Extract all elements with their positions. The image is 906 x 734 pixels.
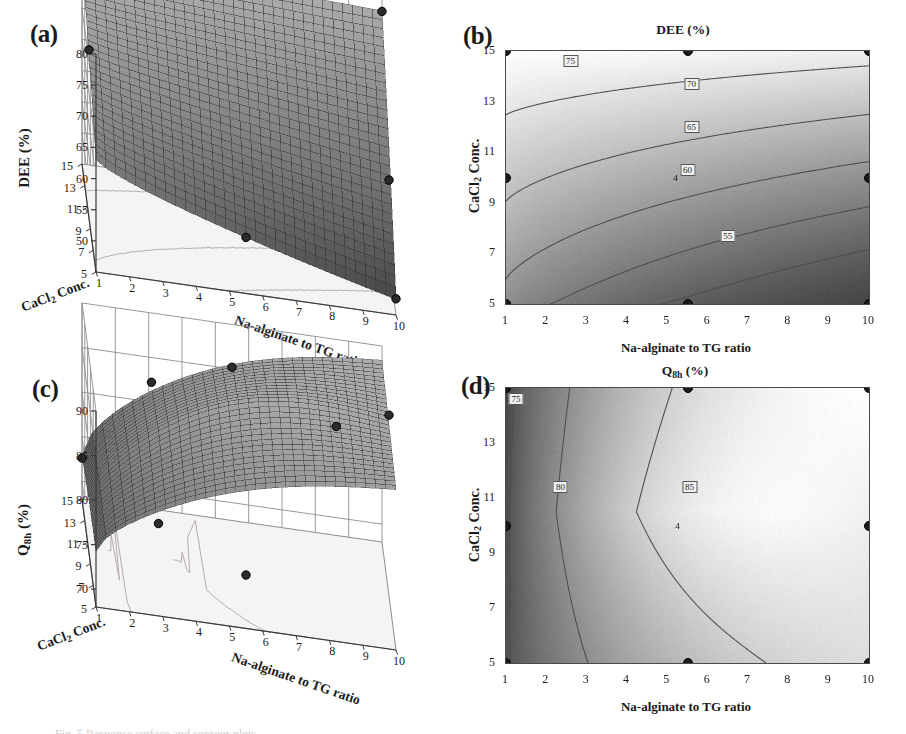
x-tick-label-5: 5 bbox=[663, 672, 669, 687]
panel-d-title: Q8h (%) bbox=[662, 363, 709, 380]
x-tick-label-4: 4 bbox=[623, 672, 629, 687]
y-tick-label-11: 11 bbox=[483, 490, 495, 505]
y-tick-mark bbox=[505, 152, 506, 153]
x-tick-label-4: 4 bbox=[623, 313, 629, 328]
cacl2-tick-label-15: 15 bbox=[61, 494, 73, 509]
cacl2-tick-label-7: 7 bbox=[78, 580, 84, 595]
ratio-tick-label-3: 3 bbox=[163, 620, 169, 635]
ratio-tick-label-6: 6 bbox=[263, 299, 269, 314]
z-tick-label-65: 65 bbox=[76, 140, 88, 155]
x-tick-label-9: 9 bbox=[825, 313, 831, 328]
ratio-tick-label-5: 5 bbox=[229, 295, 235, 310]
cacl2-tick-label-11: 11 bbox=[67, 202, 79, 217]
z-tick-label-75: 75 bbox=[76, 78, 88, 93]
x-tick-label-10: 10 bbox=[862, 672, 874, 687]
y-tick-label-13: 13 bbox=[483, 435, 495, 450]
panel-a-z-axis-label: DEE (%) bbox=[16, 128, 33, 188]
x-tick-mark bbox=[747, 304, 748, 305]
y-tick-mark bbox=[505, 607, 506, 608]
ratio-tick-label-5: 5 bbox=[229, 630, 235, 645]
x-tick-mark bbox=[586, 663, 587, 664]
panel-b-x-axis-label: Na-alginate to TG ratio bbox=[621, 340, 751, 356]
x-tick-mark bbox=[667, 663, 668, 664]
ratio-tick-label-8: 8 bbox=[329, 309, 335, 324]
contour-label-60: 60 bbox=[680, 164, 695, 176]
ratio-tick-label-10: 10 bbox=[393, 654, 405, 669]
x-tick-mark bbox=[707, 663, 708, 664]
panel-d-contour-surface bbox=[506, 388, 869, 663]
ratio-tick-label-7: 7 bbox=[296, 304, 302, 319]
y-tick-label-9: 9 bbox=[489, 194, 495, 209]
y-tick-mark bbox=[505, 202, 506, 203]
x-tick-mark bbox=[626, 304, 627, 305]
y-tick-label-11: 11 bbox=[483, 144, 495, 159]
panel-b-title: DEE (%) bbox=[656, 22, 710, 38]
ratio-tick-label-6: 6 bbox=[263, 634, 269, 649]
cacl2-tick-label-5: 5 bbox=[81, 602, 87, 617]
y-tick-mark bbox=[505, 50, 506, 51]
ratio-tick-label-4: 4 bbox=[196, 290, 202, 305]
cacl2-tick-label-15: 15 bbox=[61, 159, 73, 174]
design-point bbox=[683, 658, 693, 664]
x-tick-label-7: 7 bbox=[744, 313, 750, 328]
y-tick-label-13: 13 bbox=[483, 93, 495, 108]
ratio-tick-label-7: 7 bbox=[296, 639, 302, 654]
panel-d-contour-q8h: (d) Q8h (%) 7580854 Na-alginate to TG ra… bbox=[453, 367, 906, 734]
x-tick-mark bbox=[586, 304, 587, 305]
ratio-tick-label-2: 2 bbox=[129, 280, 135, 295]
design-point bbox=[864, 521, 870, 531]
y-tick-mark bbox=[505, 497, 506, 498]
z-tick-label-90: 90 bbox=[76, 404, 88, 419]
contour-label-65: 65 bbox=[684, 121, 699, 133]
x-tick-label-8: 8 bbox=[784, 672, 790, 687]
panel-c-z-axis-label: Q8h (%) bbox=[15, 504, 33, 556]
y-tick-mark bbox=[505, 253, 506, 254]
design-point bbox=[864, 173, 870, 183]
x-tick-label-10: 10 bbox=[862, 313, 874, 328]
z-tick-label-85: 85 bbox=[76, 448, 88, 463]
x-tick-mark bbox=[747, 663, 748, 664]
cacl2-tick-label-9: 9 bbox=[75, 558, 81, 573]
figure-caption: Fig. 5 Response surface and contour plot… bbox=[55, 727, 906, 734]
x-tick-mark bbox=[667, 304, 668, 305]
contour-label-85: 85 bbox=[682, 481, 697, 493]
x-tick-mark bbox=[626, 663, 627, 664]
ratio-tick-label-8: 8 bbox=[329, 644, 335, 659]
y-tick-label-5: 5 bbox=[489, 655, 495, 670]
design-point bbox=[864, 299, 870, 305]
y-tick-label-15: 15 bbox=[483, 43, 495, 58]
x-tick-mark bbox=[546, 304, 547, 305]
contour-label-75: 75 bbox=[509, 393, 524, 405]
panel-b-contour-dee: (b) DEE (%) 75706560554 Na-alginate to T… bbox=[453, 0, 906, 367]
cacl2-tick-label-9: 9 bbox=[75, 223, 81, 238]
x-tick-label-1: 1 bbox=[502, 672, 508, 687]
y-tick-label-9: 9 bbox=[489, 545, 495, 560]
ratio-tick-label-10: 10 bbox=[393, 319, 405, 334]
x-tick-label-3: 3 bbox=[583, 313, 589, 328]
y-tick-label-7: 7 bbox=[489, 600, 495, 615]
contour-label-55: 55 bbox=[720, 230, 735, 242]
x-tick-label-5: 5 bbox=[663, 313, 669, 328]
contour-label-80: 80 bbox=[553, 481, 568, 493]
cacl2-tick-label-13: 13 bbox=[64, 180, 76, 195]
ratio-tick-label-9: 9 bbox=[363, 314, 369, 329]
panel-d-y-axis-label: CaCl2 Conc. bbox=[467, 488, 484, 562]
z-tick-label-80: 80 bbox=[76, 47, 88, 62]
y-tick-label-15: 15 bbox=[483, 380, 495, 395]
y-tick-mark bbox=[505, 552, 506, 553]
x-tick-mark bbox=[546, 663, 547, 664]
x-tick-label-8: 8 bbox=[784, 313, 790, 328]
ratio-tick-label-3: 3 bbox=[163, 285, 169, 300]
panel-b-plot-frame: 75706560554 bbox=[505, 50, 870, 305]
panel-d-x-axis-label: Na-alginate to TG ratio bbox=[621, 699, 751, 715]
x-tick-label-2: 2 bbox=[542, 672, 548, 687]
y-tick-label-5: 5 bbox=[489, 296, 495, 311]
x-tick-mark bbox=[788, 304, 789, 305]
x-tick-mark bbox=[868, 663, 869, 664]
ratio-tick-label-9: 9 bbox=[363, 649, 369, 664]
x-tick-label-6: 6 bbox=[704, 313, 710, 328]
x-tick-label-2: 2 bbox=[542, 313, 548, 328]
y-tick-mark bbox=[505, 387, 506, 388]
z-tick-label-60: 60 bbox=[76, 171, 88, 186]
cacl2-tick-label-7: 7 bbox=[78, 245, 84, 260]
